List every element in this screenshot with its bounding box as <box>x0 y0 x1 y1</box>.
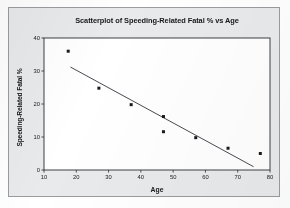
plot-area <box>0 0 290 208</box>
scatterplot-chart: Scatterplot of Speeding-Related Fatal % … <box>0 0 290 208</box>
data-point <box>130 103 133 106</box>
data-point <box>194 136 197 139</box>
data-point <box>97 87 100 90</box>
figure-root: Scatterplot of Speeding-Related Fatal % … <box>0 0 290 208</box>
data-point <box>259 152 262 155</box>
data-point <box>162 130 165 133</box>
data-point <box>162 115 165 118</box>
plot-frame <box>44 38 270 170</box>
data-point <box>67 50 70 53</box>
data-point <box>227 147 230 150</box>
